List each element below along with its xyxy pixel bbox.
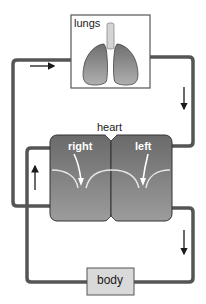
heart-label: heart [97, 121, 122, 133]
trachea-icon [107, 23, 114, 49]
lungs-label: lungs [74, 17, 100, 29]
heart-left-label: left [135, 140, 152, 152]
body-label: body [97, 273, 123, 287]
circulation-diagram: lungs heart right left body [0, 0, 206, 304]
pulmonary-vein-pipe [150, 57, 193, 146]
heart-right-label: right [68, 140, 92, 152]
diagram-canvas [0, 0, 206, 304]
